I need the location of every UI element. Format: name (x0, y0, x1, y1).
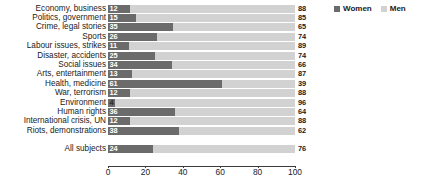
bar-segment-women (108, 23, 173, 31)
bar-track-men (108, 33, 295, 41)
bar-segment-women (108, 61, 172, 69)
value-label-women: 12 (110, 90, 118, 97)
x-axis: 020406080100 (108, 166, 295, 180)
bar-track-men (108, 89, 295, 97)
bar-track-men (108, 23, 295, 31)
x-axis-tick-label: 20 (141, 168, 150, 176)
category-label: Arts, entertainment (37, 70, 106, 78)
bar-track-men (108, 42, 295, 50)
chart-row-human-rights: Human rights3664 (0, 107, 425, 116)
bar-segment-women (108, 80, 222, 88)
category-label: Crime, legal stories (36, 23, 106, 31)
category-label: Labour issues, strikes (27, 42, 106, 50)
bar-track-men (108, 52, 295, 60)
bar-track-men (108, 80, 295, 88)
category-label: Riots, demonstrations (27, 127, 106, 135)
value-label-women: 24 (110, 145, 118, 152)
value-label-men: 66 (298, 61, 306, 68)
category-label: Disaster, accidents (37, 52, 106, 60)
value-label-men: 39 (298, 80, 306, 87)
bar-segment-women (108, 108, 175, 116)
category-label: Economy, business (36, 5, 106, 13)
value-label-men: 64 (298, 108, 306, 115)
value-label-women: 35 (110, 24, 118, 31)
category-label: International crisis, UN (24, 117, 106, 125)
category-label: Social issues (58, 61, 106, 69)
value-label-women: 26 (110, 33, 118, 40)
bar-track-men (108, 108, 295, 116)
bar-track-men (108, 61, 295, 69)
category-label: Human rights (57, 108, 106, 116)
chart-row-labour-issues-strikes: Labour issues, strikes1189 (0, 42, 425, 51)
bar-track-men (108, 99, 295, 107)
chart-rows: Economy, business1288Politics, governmen… (0, 4, 425, 154)
chart-row-riots-demonstrations: Riots, demonstrations3862 (0, 126, 425, 135)
chart-row-politics-government: Politics, government1585 (0, 13, 425, 22)
value-label-women: 12 (110, 5, 118, 12)
value-label-women: 38 (110, 127, 118, 134)
x-axis-tick-label: 60 (216, 168, 225, 176)
chart-row-social-issues: Social issues3466 (0, 60, 425, 69)
value-label-women: 11 (110, 43, 117, 50)
value-label-men: 85 (298, 14, 306, 21)
chart-row-disaster-accidents: Disaster, accidents2574 (0, 51, 425, 60)
value-label-men: 88 (298, 118, 306, 125)
bar-track-men (108, 5, 295, 13)
chart-row-arts-entertainment: Arts, entertainment1387 (0, 70, 425, 79)
bar-segment-women (108, 127, 179, 135)
category-label: Sports (82, 33, 106, 41)
value-label-men: 89 (298, 43, 306, 50)
value-label-women: 15 (110, 14, 118, 21)
value-label-men: 76 (298, 145, 306, 152)
value-label-women: 12 (110, 118, 118, 125)
chart-row-health-medicine: Health, medicine6139 (0, 79, 425, 88)
value-label-men: 74 (298, 52, 306, 59)
value-label-men: 87 (298, 71, 306, 78)
value-label-men: 74 (298, 33, 306, 40)
value-label-men: 65 (298, 24, 306, 31)
chart-row-economy-business: Economy, business1288 (0, 4, 425, 13)
category-label: Health, medicine (45, 80, 106, 88)
value-label-women: 34 (110, 61, 118, 68)
value-label-men: 62 (298, 127, 306, 134)
value-label-women: 25 (110, 52, 118, 59)
x-axis-line (108, 166, 295, 167)
bar-track-men (108, 145, 295, 153)
x-axis-tick-label: 80 (253, 168, 262, 176)
bar-track-men (108, 127, 295, 135)
chart-row-international-crisis-un: International crisis, UN1288 (0, 117, 425, 126)
chart-row-environment: Environment496 (0, 98, 425, 107)
chart-row-all-subjects: All subjects2476 (0, 144, 425, 153)
value-label-women: 61 (110, 80, 118, 87)
bar-track-men (108, 14, 295, 22)
chart-row-war-terrorism: War, terrorism1288 (0, 89, 425, 98)
category-label: All subjects (65, 145, 106, 153)
value-label-women: 36 (110, 108, 118, 115)
category-label: War, terrorism (55, 89, 106, 97)
bar-track-men (108, 70, 295, 78)
category-label: Politics, government (32, 14, 106, 22)
value-label-men: 96 (298, 99, 306, 106)
chart-row-sports: Sports2674 (0, 32, 425, 41)
stacked-bar-chart: Women Men Economy, business1288Politics,… (0, 0, 425, 180)
chart-row-crime-legal-stories: Crime, legal stories3565 (0, 23, 425, 32)
x-axis-tick-label: 0 (106, 168, 111, 176)
x-axis-tick-label: 100 (288, 168, 302, 176)
x-axis-tick-label: 40 (178, 168, 187, 176)
value-label-women: 13 (110, 71, 118, 78)
value-label-men: 88 (298, 5, 306, 12)
category-label: Environment (60, 98, 106, 106)
value-label-women: 4 (110, 99, 114, 106)
value-label-men: 88 (298, 90, 306, 97)
bar-track-men (108, 117, 295, 125)
